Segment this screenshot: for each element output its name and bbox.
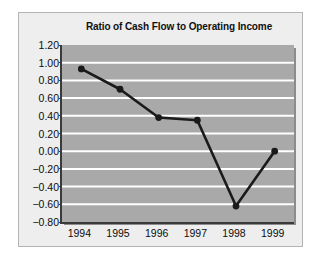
y-tick-label: −0.80 [21,217,59,227]
plot-svg [62,45,294,222]
x-tick-label: 1996 [137,227,177,239]
x-axis: 199419951996199719981999 [60,227,294,243]
y-tick-label: −0.60 [21,199,59,209]
y-tick-label: 1.00 [21,58,59,68]
y-tick-label: −0.20 [21,164,59,174]
y-tick-label: 0.20 [21,129,59,139]
y-tick-label: 0.60 [21,93,59,103]
chart-figure: Ratio of Cash Flow to Operating Income 1… [18,12,303,247]
x-tick-label: 1997 [175,227,215,239]
y-tick-label: 0.00 [21,146,59,156]
data-point [271,148,278,155]
plot-area [60,45,294,224]
data-point [233,203,240,210]
x-tick-label: 1995 [98,227,138,239]
y-tick-label: 1.20 [21,40,59,50]
y-tick-label: −0.40 [21,182,59,192]
data-point [78,65,85,72]
data-point [117,86,124,93]
y-tick-label: 0.40 [21,111,59,121]
chart-title: Ratio of Cash Flow to Operating Income [59,21,299,33]
series-line [81,69,274,206]
data-point [155,114,162,121]
x-tick-label: 1994 [59,227,99,239]
y-axis: 1.201.000.800.600.400.200.00−0.20−0.40−0… [19,45,59,222]
data-point [194,117,201,124]
x-tick-label: 1998 [214,227,254,239]
y-tick-label: 0.80 [21,75,59,85]
x-tick-label: 1999 [253,227,293,239]
